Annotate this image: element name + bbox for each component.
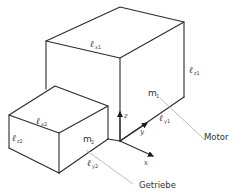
mass-label-m1: m 1 [148,88,159,99]
svg-text:ℓ: ℓ [87,158,91,168]
dim-label-z1: ℓ z1 [189,65,200,76]
svg-text:x1: x1 [95,44,101,50]
getriebe-to-origin-edge [108,139,120,141]
svg-text:x2: x2 [41,121,47,127]
svg-text:ℓ: ℓ [36,116,40,126]
svg-text:ℓ: ℓ [159,113,163,123]
svg-text:y2: y2 [92,163,98,170]
svg-text:1: 1 [156,93,159,99]
svg-text:ℓ: ℓ [90,39,94,49]
getriebe-box [9,86,120,173]
motor-label: Motor [204,132,229,142]
dim-label-x1: ℓ x1 [90,39,101,50]
svg-text:ℓ: ℓ [189,65,193,75]
dim-label-y2: ℓ y2 [87,158,98,170]
svg-text:z2: z2 [17,138,23,144]
x-axis-arrow [120,141,153,156]
svg-text:2: 2 [91,139,94,145]
svg-text:y1: y1 [164,118,170,125]
z-axis-label: z [123,112,128,120]
motor-top-face [46,7,184,58]
motor-gearbox-diagram: z y x ℓ x1 ℓ z1 ℓ y1 m 1 ℓ x2 ℓ z2 ℓ y2 … [0,0,238,196]
dim-label-y1: ℓ y1 [159,113,170,125]
coordinate-system: z y x [120,97,184,167]
getriebe-label: Getriebe [139,180,176,190]
y-axis-label: y [139,128,145,136]
svg-text:z1: z1 [194,70,200,76]
x-axis-label: x [144,159,148,167]
svg-text:ℓ: ℓ [12,133,16,143]
